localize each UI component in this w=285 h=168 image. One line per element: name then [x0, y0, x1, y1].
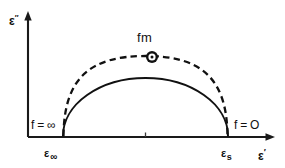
y-axis-label: ε″	[9, 14, 18, 27]
y-axis-arrow-icon	[24, 11, 31, 21]
y-axis-label-superscript: ″	[15, 13, 19, 22]
debye-semicircle-curve	[63, 78, 228, 136]
x-axis-arrow-icon	[266, 133, 276, 140]
x-axis-label: ε′	[258, 148, 266, 162]
x-axis-label-superscript: ′	[264, 147, 266, 157]
frequency-zero-label: f = O	[234, 119, 259, 131]
epsilon-static-label: εs	[221, 148, 232, 162]
cole-cole-figure: ε″ ε′ ε∞ εs f = ∞ f = O fm	[0, 0, 285, 168]
fm-marker-core	[151, 56, 154, 59]
epsilon-infinity-label: ε∞	[44, 148, 57, 162]
epsilon-infinity-subscript: ∞	[50, 151, 57, 162]
frequency-infinity-label: f = ∞	[31, 119, 56, 131]
cole-cole-plot-canvas	[0, 0, 285, 168]
epsilon-infinity-symbol: ε	[44, 147, 49, 159]
cole-cole-depressed-arc	[64, 56, 228, 136]
epsilon-static-subscript: s	[227, 152, 232, 162]
frequency-max-label: fm	[137, 31, 152, 44]
epsilon-static-symbol: ε	[221, 147, 226, 159]
